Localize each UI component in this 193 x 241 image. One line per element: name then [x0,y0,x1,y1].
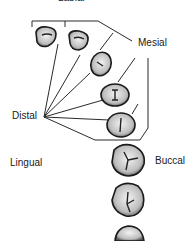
label-lingual: Lingual [10,158,42,168]
label-buccal: Buccal [155,156,185,166]
tooth-lateral-incisor [69,31,88,50]
distal-line-5 [44,117,109,120]
mesial-line-3 [132,104,138,114]
distal-line-6 [44,117,95,140]
tooth-central-incisor [36,27,56,47]
mesial-line-2 [118,58,135,82]
mesial-leader-line [100,33,113,50]
tooth-third-molar [115,226,144,241]
label-mesial: Mesial [138,38,167,48]
label-labial: Labial [58,0,85,3]
label-distal: Distal [12,111,37,121]
